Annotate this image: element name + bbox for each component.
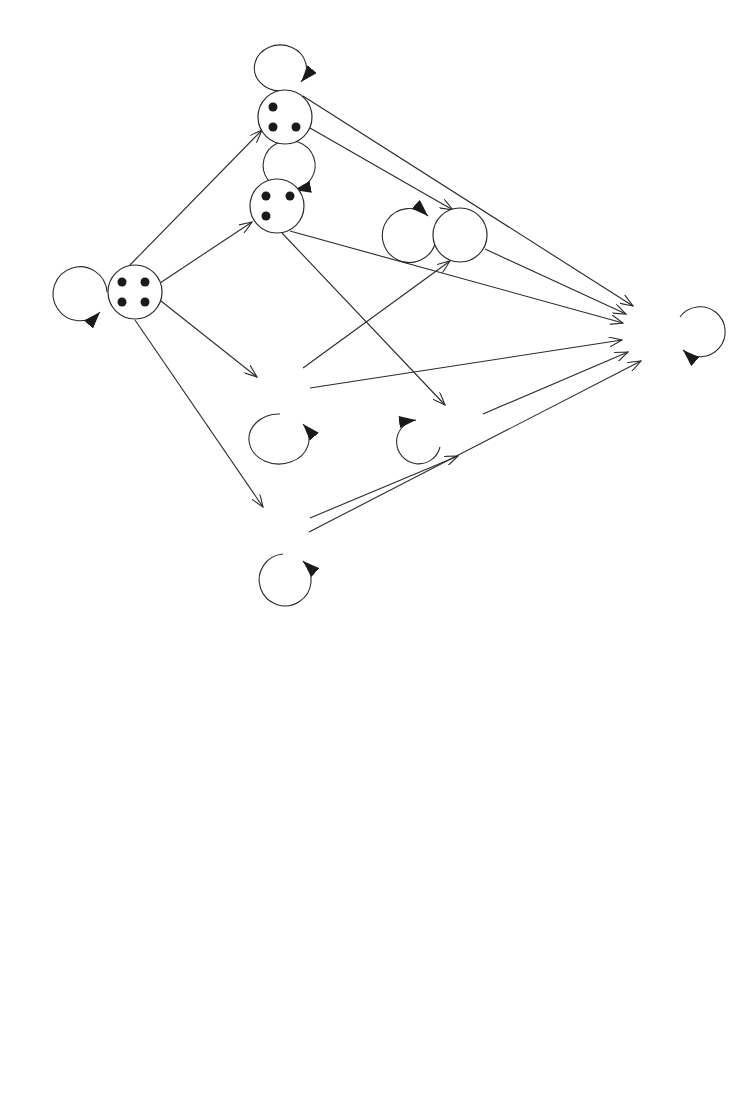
edge-E-D [303, 261, 450, 368]
edge-B-F [303, 96, 633, 306]
state-C [250, 179, 304, 233]
self-loop-A [53, 267, 107, 321]
self-loop-D [382, 209, 435, 263]
state-circle [250, 179, 304, 233]
edges-a [130, 96, 641, 532]
self-loop-H [259, 554, 311, 606]
markov-diagram: I caught myself emitting a long run of r… [0, 0, 756, 1104]
diagram-part-a: I caught myself emitting a long run of r… [53, 45, 725, 606]
edge-H-G [310, 456, 458, 518]
edge-A-C [160, 222, 252, 283]
edge-A-B [130, 130, 262, 265]
self-loop-B [254, 45, 306, 91]
edge-A-E [161, 301, 257, 377]
edge-E-F [310, 340, 622, 388]
state-circle [433, 208, 487, 262]
edge-C-G [282, 233, 445, 405]
state-A [108, 265, 162, 319]
state-circle [258, 90, 312, 144]
self-loop-F [680, 307, 725, 357]
self-loop-G [397, 420, 440, 464]
edge-B-D [310, 128, 453, 210]
state-circle [108, 265, 162, 319]
state-D: I caught myself emitting a long run of r… [433, 208, 487, 262]
edge-H-F [309, 361, 641, 532]
self-loop-E [249, 414, 309, 464]
state-B [258, 90, 312, 144]
edge-A-H [135, 320, 263, 507]
self-loops-a [53, 45, 725, 606]
